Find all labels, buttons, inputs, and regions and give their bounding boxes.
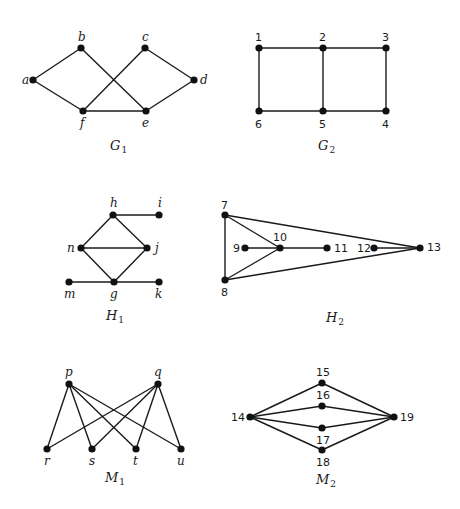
graph-h2: 78910111213H2 <box>221 199 441 327</box>
vertex-label-f: f <box>79 116 87 130</box>
vertex-label-13: 13 <box>427 241 441 254</box>
vertex-label-8: 8 <box>221 286 228 299</box>
vertex-label-18: 18 <box>316 456 330 469</box>
vertex-label-b: b <box>78 30 86 44</box>
graph-caption-m1: M1 <box>104 470 125 487</box>
vertex-label-r: r <box>44 454 51 468</box>
graph-caption-g1: G1 <box>110 138 127 155</box>
vertex-6 <box>255 107 262 114</box>
vertex-17 <box>318 424 325 431</box>
vertex-p <box>65 380 72 387</box>
vertex-label-e: e <box>142 116 149 130</box>
graph-m2: 141516171819M2 <box>231 366 414 489</box>
vertex-label-16: 16 <box>316 389 330 402</box>
vertex-14 <box>246 413 253 420</box>
vertex-1 <box>255 44 262 51</box>
vertex-8 <box>221 276 228 283</box>
graph-g1: abcdefG1 <box>22 30 208 155</box>
vertex-m <box>65 278 72 285</box>
vertex-label-d: d <box>200 73 208 87</box>
vertex-label-11: 11 <box>334 242 348 255</box>
graph-caption-h2: H2 <box>325 310 344 327</box>
vertex-r <box>43 445 50 452</box>
vertex-b <box>77 44 84 51</box>
vertex-label-m: m <box>64 287 75 301</box>
vertex-7 <box>221 211 228 218</box>
vertex-2 <box>319 44 326 51</box>
vertex-c <box>141 44 148 51</box>
vertex-13 <box>416 244 423 251</box>
vertex-label-i: i <box>158 196 162 210</box>
vertex-label-3: 3 <box>382 31 389 44</box>
vertex-label-n: n <box>67 241 75 255</box>
graph-g2: 123456G2 <box>255 31 390 155</box>
edge-j-g <box>114 248 147 282</box>
edge-a-f <box>33 80 83 111</box>
edge-p-r <box>47 384 69 449</box>
vertex-3 <box>382 44 389 51</box>
vertex-19 <box>390 413 397 420</box>
edge-h-j <box>113 215 147 248</box>
edge-7-13 <box>225 215 420 248</box>
vertex-label-a: a <box>22 73 29 87</box>
vertex-label-2: 2 <box>319 31 326 44</box>
vertex-s <box>88 445 95 452</box>
edge-a-b <box>33 48 81 80</box>
vertex-label-14: 14 <box>231 411 245 424</box>
vertex-k <box>155 278 162 285</box>
vertex-label-s: s <box>89 454 95 468</box>
vertex-label-10: 10 <box>273 231 287 244</box>
vertex-j <box>143 244 150 251</box>
edge-n-g <box>81 248 114 282</box>
vertex-4 <box>382 107 389 114</box>
vertex-a <box>29 76 36 83</box>
edge-q-t <box>136 384 158 449</box>
graph-figure: abcdefG1 123456G2 hijnmgkH1 78910111213H… <box>0 0 460 509</box>
vertex-h <box>109 211 116 218</box>
vertex-label-15: 15 <box>316 366 330 379</box>
vertex-i <box>155 211 162 218</box>
vertex-15 <box>318 379 325 386</box>
vertex-label-6: 6 <box>255 118 262 131</box>
vertex-5 <box>319 107 326 114</box>
edge-q-u <box>158 384 181 449</box>
edge-d-e <box>146 80 194 111</box>
vertex-9 <box>241 244 248 251</box>
vertex-16 <box>318 402 325 409</box>
edge-p-s <box>69 384 92 449</box>
graph-caption-m2: M2 <box>315 472 336 489</box>
graph-caption-g2: G2 <box>318 138 335 155</box>
vertex-label-q: q <box>154 365 162 379</box>
vertex-label-u: u <box>177 454 185 468</box>
vertex-label-k: k <box>155 287 162 301</box>
edge-8-13 <box>225 248 420 280</box>
vertex-label-4: 4 <box>382 118 389 131</box>
vertex-label-7: 7 <box>221 199 228 212</box>
vertex-u <box>177 445 184 452</box>
vertex-e <box>142 107 149 114</box>
vertex-label-p: p <box>65 365 73 379</box>
vertex-d <box>190 76 197 83</box>
vertex-label-5: 5 <box>319 118 326 131</box>
graph-h1: hijnmgkH1 <box>64 196 163 325</box>
edge-h-n <box>81 215 113 248</box>
vertex-18 <box>318 446 325 453</box>
vertex-n <box>77 244 84 251</box>
graph-m1: pqrstuM1 <box>43 365 184 487</box>
vertex-10 <box>276 244 283 251</box>
vertex-f <box>79 107 86 114</box>
vertex-label-17: 17 <box>316 434 330 447</box>
vertex-q <box>154 380 161 387</box>
vertex-label-h: h <box>110 196 118 210</box>
vertex-label-12: 12 <box>357 242 371 255</box>
vertex-label-1: 1 <box>255 31 262 44</box>
vertex-11 <box>323 244 330 251</box>
vertex-12 <box>370 244 377 251</box>
vertex-label-9: 9 <box>233 242 240 255</box>
vertex-g <box>110 278 117 285</box>
vertex-label-19: 19 <box>400 411 414 424</box>
vertex-label-g: g <box>110 287 118 301</box>
vertex-label-t: t <box>133 454 138 468</box>
edge-c-d <box>145 48 194 80</box>
graph-caption-h1: H1 <box>105 308 124 325</box>
